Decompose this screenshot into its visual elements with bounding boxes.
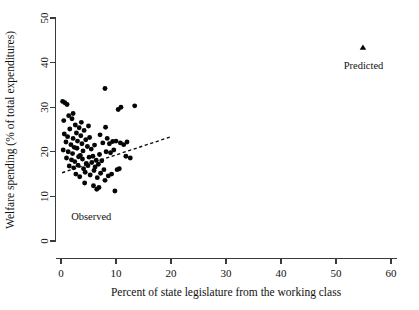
y-tick-label: 10: [38, 190, 50, 202]
data-point: [77, 125, 82, 130]
data-point: [82, 128, 87, 133]
data-point: [75, 146, 80, 151]
data-point: [86, 123, 91, 128]
data-point: [75, 139, 80, 144]
data-point: [71, 136, 76, 141]
plot-canvas: 01020304050 0102030405060 Observed Predi…: [0, 0, 419, 310]
x-tick-label: 20: [166, 267, 178, 279]
data-point: [103, 86, 108, 91]
data-point: [79, 120, 84, 125]
data-point: [83, 170, 88, 175]
observed-annotation: Observed: [71, 211, 112, 222]
data-point: [123, 154, 128, 159]
data-point: [87, 135, 92, 140]
data-point: [101, 167, 106, 172]
data-point: [111, 148, 116, 153]
data-point: [88, 173, 93, 178]
y-axis-ticks: 01020304050: [38, 12, 56, 244]
x-tick-label: 60: [386, 267, 398, 279]
data-point: [95, 175, 100, 180]
data-point: [97, 152, 102, 157]
predicted-triangle-marker: [360, 44, 367, 49]
y-tick-label: 50: [38, 12, 50, 24]
predicted-marker-group: [360, 44, 367, 49]
data-point: [89, 160, 94, 165]
data-point: [79, 141, 84, 146]
x-tick-label: 30: [221, 267, 233, 279]
x-axis-title: Percent of state legislature from the wo…: [111, 286, 342, 299]
data-point: [98, 132, 103, 137]
data-point: [105, 136, 110, 141]
data-point: [71, 165, 76, 170]
data-point: [67, 127, 72, 132]
data-point: [77, 174, 82, 179]
data-point: [103, 125, 108, 130]
data-point: [90, 154, 95, 159]
data-point: [125, 140, 130, 145]
data-point: [97, 185, 102, 190]
data-point: [114, 139, 119, 144]
x-tick-label: 0: [58, 267, 64, 279]
data-point: [104, 149, 109, 154]
data-point: [65, 102, 70, 107]
data-point: [61, 118, 66, 123]
x-tick-label: 10: [111, 267, 123, 279]
data-point: [128, 156, 133, 161]
data-point: [117, 166, 122, 171]
data-point: [63, 140, 68, 145]
data-point: [92, 143, 97, 148]
y-axis-title: Welfare spending (% of total expenditure…: [4, 31, 17, 229]
x-tick-label: 50: [331, 267, 343, 279]
observed-points-group: [60, 86, 137, 193]
scatter-plot-figure: 01020304050 0102030405060 Observed Predi…: [0, 0, 419, 310]
data-point: [70, 116, 75, 121]
data-point: [70, 151, 75, 156]
data-point: [112, 189, 117, 194]
data-point: [81, 148, 86, 153]
data-point: [80, 156, 85, 161]
data-point: [99, 158, 104, 163]
data-point: [132, 103, 137, 108]
y-tick-label: 0: [38, 238, 50, 244]
y-tick-label: 20: [38, 146, 50, 158]
x-axis-ticks: 0102030405060: [58, 259, 397, 280]
data-point: [61, 148, 66, 153]
data-point: [119, 105, 124, 110]
data-point: [86, 163, 91, 168]
x-tick-label: 40: [276, 267, 288, 279]
data-point: [92, 168, 97, 173]
data-point: [64, 156, 69, 161]
data-point: [100, 140, 105, 145]
data-point: [65, 134, 70, 139]
y-tick-label: 30: [38, 101, 50, 113]
data-point: [74, 131, 79, 136]
predicted-annotation: Predicted: [344, 60, 384, 71]
data-point: [82, 181, 87, 186]
data-point: [66, 149, 71, 154]
data-point: [103, 178, 108, 183]
data-point: [89, 147, 94, 152]
data-point: [71, 111, 76, 116]
y-tick-label: 40: [38, 57, 50, 69]
data-point: [67, 164, 72, 169]
data-point: [76, 163, 81, 168]
data-point: [109, 172, 114, 177]
data-point: [78, 133, 83, 138]
